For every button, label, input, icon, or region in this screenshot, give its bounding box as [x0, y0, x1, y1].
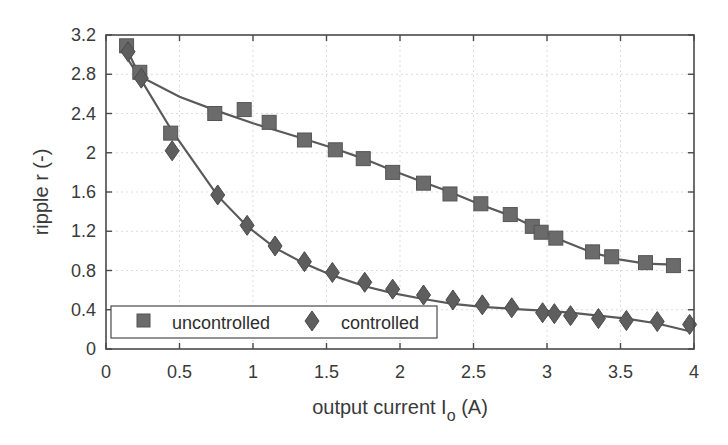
- diamond-marker: [358, 272, 372, 292]
- fit-curves: [124, 49, 690, 332]
- x-tick-label: 0: [101, 362, 111, 382]
- x-tick-label: 0.5: [167, 362, 192, 382]
- diamond-marker: [475, 295, 489, 315]
- x-tick-label: 1: [248, 362, 258, 382]
- y-tick-label: 2: [86, 143, 96, 163]
- legend-label-uncontrolled: uncontrolled: [172, 313, 270, 333]
- diamond-marker: [325, 262, 339, 282]
- legend-square-marker-icon: [137, 314, 150, 327]
- y-tick-label: 1.6: [71, 182, 96, 202]
- diamond-marker: [297, 252, 311, 272]
- square-marker: [638, 256, 652, 270]
- y-tick-label: 0.8: [71, 261, 96, 281]
- y-tick-label: 2.8: [71, 64, 96, 84]
- grid-lines: [106, 35, 694, 349]
- diamond-marker: [505, 298, 519, 318]
- square-marker: [328, 143, 342, 157]
- square-marker: [586, 245, 600, 259]
- x-tick-label: 2.5: [461, 362, 486, 382]
- diamond-marker: [446, 290, 460, 310]
- y-tick-label: 0.4: [71, 300, 96, 320]
- square-marker: [534, 225, 548, 239]
- diamond-marker: [547, 304, 561, 324]
- x-tick-label: 1.5: [314, 362, 339, 382]
- square-marker: [417, 176, 431, 190]
- diamond-marker: [240, 215, 254, 235]
- square-marker: [297, 133, 311, 147]
- y-tick-label: 1.2: [71, 221, 96, 241]
- square-marker: [474, 197, 488, 211]
- square-marker: [549, 231, 563, 245]
- square-marker: [443, 187, 457, 201]
- diamond-marker: [650, 312, 664, 332]
- square-marker: [356, 152, 370, 166]
- y-tick-labels: 00.40.81.21.622.42.83.2: [71, 25, 96, 359]
- square-marker: [208, 107, 222, 121]
- square-marker: [386, 165, 400, 179]
- x-axis-title: output current Io (A): [312, 396, 488, 424]
- x-tick-labels: 00.511.522.533.54: [101, 362, 699, 382]
- y-tick-label: 3.2: [71, 25, 96, 45]
- square-marker: [237, 103, 251, 117]
- diamond-marker: [619, 311, 633, 331]
- diamond-marker: [564, 306, 578, 326]
- square-marker: [666, 259, 680, 273]
- diamond-marker: [165, 141, 179, 161]
- square-marker: [605, 250, 619, 264]
- x-tick-label: 2: [395, 362, 405, 382]
- chart: 00.511.522.533.54 00.40.81.21.622.42.83.…: [0, 0, 728, 445]
- legend-label-controlled: controlled: [341, 313, 419, 333]
- data-markers: [120, 39, 697, 335]
- diamond-marker: [591, 309, 605, 329]
- y-tick-label: 2.4: [71, 104, 96, 124]
- y-tick-label: 0: [86, 339, 96, 359]
- square-marker: [262, 115, 276, 129]
- x-tick-label: 4: [689, 362, 699, 382]
- legend: uncontrolled controlled: [111, 306, 437, 338]
- x-tick-label: 3.5: [608, 362, 633, 382]
- diamond-marker: [417, 285, 431, 305]
- x-tick-label: 3: [542, 362, 552, 382]
- y-axis-title: ripple r (-): [30, 149, 52, 236]
- square-marker: [164, 126, 178, 140]
- diamond-marker: [268, 236, 282, 256]
- square-marker: [503, 208, 517, 222]
- diamond-marker: [386, 279, 400, 299]
